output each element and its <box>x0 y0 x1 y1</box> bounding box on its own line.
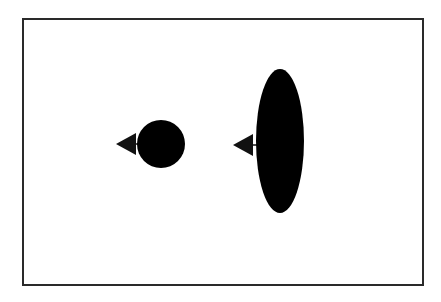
filled-circle <box>137 120 185 168</box>
circle-group <box>116 120 185 168</box>
left-arrow-marker-icon <box>233 134 253 156</box>
diagram-canvas <box>0 0 441 302</box>
ellipse-group <box>233 69 304 213</box>
filled-ellipse <box>256 69 304 213</box>
left-arrow-marker-icon <box>116 133 136 155</box>
